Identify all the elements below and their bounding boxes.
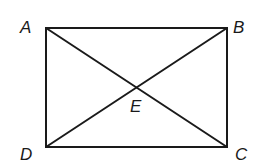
rectangle-diagram: A B C D E: [0, 0, 263, 163]
vertex-label-b: B: [233, 18, 244, 37]
vertex-label-c: C: [235, 145, 248, 163]
vertex-label-d: D: [20, 145, 32, 163]
intersection-label-e: E: [130, 97, 142, 116]
vertex-label-a: A: [19, 18, 31, 37]
